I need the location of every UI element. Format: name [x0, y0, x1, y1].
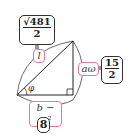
hypotenuse-value-box: √481 2 — [19, 15, 55, 45]
vertical-leg-numerator: 15 — [102, 57, 122, 68]
angle-arc — [25, 88, 28, 95]
horizontal-leg-value-box: 8 — [37, 117, 50, 133]
hypotenuse-numerator: √481 — [20, 16, 54, 27]
right-angle-marker — [67, 89, 73, 95]
angle-label: φ — [28, 83, 34, 93]
hypotenuse-line — [17, 41, 73, 95]
vertical-leg-label: aω — [78, 62, 99, 76]
vertical-leg-denominator: 2 — [102, 69, 122, 80]
vertical-leg-value-box: 15 2 — [101, 56, 123, 84]
hypotenuse-label: l — [33, 49, 45, 63]
hypotenuse-denominator: 2 — [20, 28, 54, 39]
